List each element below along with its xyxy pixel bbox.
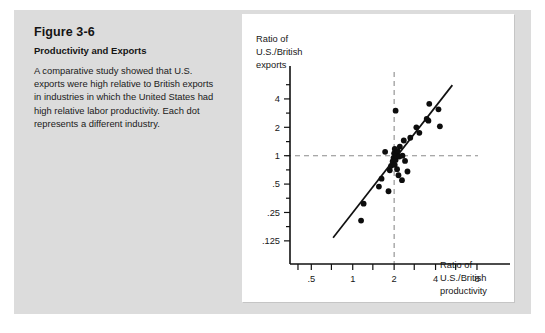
data-point: [361, 201, 367, 207]
data-point: [437, 123, 443, 129]
data-point: [397, 144, 403, 150]
x-axis-title: Ratio of U.S./British productivity: [440, 260, 487, 296]
figure-number: Figure 3-6: [34, 26, 220, 40]
data-point: [358, 218, 364, 224]
data-point: [396, 172, 402, 178]
data-point: [436, 106, 442, 112]
data-point: [382, 149, 388, 155]
x-tick-label: 8: [474, 274, 479, 284]
figure-panel: Figure 3-6 Productivity and Exports A co…: [14, 10, 531, 314]
data-point: [386, 188, 392, 194]
data-point: [399, 177, 405, 183]
data-point: [426, 118, 432, 124]
y-tick-labels: .125.25.5124: [262, 94, 280, 246]
chart-card: Ratio of U.S./British exports Ratio of U…: [242, 14, 514, 302]
data-point: [416, 130, 422, 136]
y-axis-title-line-2: U.S./British: [256, 47, 303, 57]
data-point: [379, 176, 385, 182]
caption-block: Figure 3-6 Productivity and Exports A co…: [34, 26, 220, 130]
x-tick-label: .5: [307, 274, 315, 284]
x-tick-label: 1: [350, 274, 355, 284]
y-tick-label: .125: [262, 236, 280, 246]
data-point: [413, 124, 419, 130]
data-point: [401, 138, 407, 144]
data-point: [394, 166, 400, 172]
y-tick-label: 1: [275, 151, 280, 161]
y-tick-label: .25: [267, 208, 280, 218]
y-axis-title-line-1: Ratio of: [256, 34, 288, 44]
x-tick-label: 4: [433, 274, 438, 284]
data-point: [393, 108, 399, 114]
x-tick-label: 2: [392, 274, 397, 284]
data-point: [402, 158, 408, 164]
scatter-plot: Ratio of U.S./British exports Ratio of U…: [242, 14, 514, 302]
y-tick-label: 4: [275, 94, 280, 104]
y-tick-label: .5: [272, 179, 280, 189]
x-axis-title-line-3: productivity: [440, 286, 487, 296]
axis-lines: [290, 66, 510, 264]
figure-subtitle: Productivity and Exports: [34, 46, 220, 57]
data-points: [358, 101, 443, 224]
data-point: [376, 184, 382, 190]
reference-lines: [286, 72, 478, 264]
data-point: [400, 153, 406, 159]
y-tick-label: 2: [275, 123, 280, 133]
data-point: [426, 101, 432, 107]
y-axis-title: Ratio of U.S./British exports: [256, 34, 303, 70]
data-point: [405, 169, 411, 175]
figure-description: A comparative study showed that U.S. exp…: [34, 64, 220, 131]
data-point: [407, 135, 413, 141]
y-axis-title-line-3: exports: [256, 60, 287, 70]
